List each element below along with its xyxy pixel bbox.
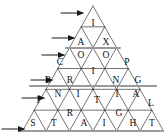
letter-layer: IAXCOOPBRINGINITIALSTRAIGHT	[30, 18, 155, 128]
letter-cell-r3-c3: O	[103, 50, 110, 60]
letter-cell-r2-c2: X	[103, 37, 110, 47]
letter-cell-r5-c2: N	[55, 89, 62, 99]
letter-cell-r6-c2: T	[51, 118, 57, 128]
letter-cell-r3-c1: C	[57, 57, 63, 67]
grid-edge-left	[81, 89, 93, 110]
letter-cell-r5-c7: L	[148, 98, 154, 108]
letter-cell-r4-c4: N	[113, 75, 120, 85]
letter-cell-r3-c2: O	[78, 50, 85, 60]
letter-cell-r4-c1: B	[45, 75, 51, 85]
word-pyramid-figure: IAXCOOPBRINGINITIALSTRAIGHT	[0, 0, 168, 139]
triangle-diagram: IAXCOOPBRINGINITIALSTRAIGHT	[0, 0, 168, 139]
letter-cell-r5-c4: T	[94, 95, 100, 105]
letter-cell-r4-c3: I	[91, 66, 94, 76]
letter-cell-r6-c6: G	[116, 108, 123, 118]
letter-cell-r6-c1: S	[30, 118, 35, 128]
letter-cell-r3-c4: P	[124, 57, 129, 67]
letter-cell-r5-c6: A	[133, 89, 140, 99]
letter-cell-r5-c1: I	[36, 95, 39, 105]
letter-cell-r6-c8: T	[149, 118, 155, 128]
letter-cell-r6-c7: H	[130, 118, 137, 128]
letter-cell-r1-c1: I	[91, 18, 94, 28]
letter-cell-r5-c3: I	[76, 89, 79, 99]
letter-cell-r6-c4: A	[81, 118, 88, 128]
letter-cell-r4-c5: G	[135, 75, 142, 85]
letter-cell-r4-c2: R	[67, 75, 74, 85]
letter-cell-r5-c5: I	[115, 89, 118, 99]
letter-cell-r2-c1: A	[78, 37, 85, 47]
grid-edge-right	[34, 110, 46, 131]
letter-cell-r6-c5: I	[102, 118, 105, 128]
letter-cell-r6-c3: R	[67, 108, 74, 118]
grid-edge-right	[93, 6, 105, 27]
